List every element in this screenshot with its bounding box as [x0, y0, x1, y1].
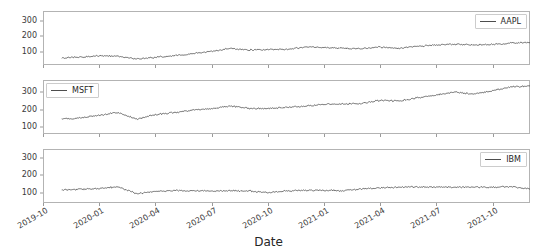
xtick-mark: [43, 65, 44, 68]
xtick-label: 2020-07: [179, 206, 218, 234]
xtick-mark: [99, 134, 100, 137]
xtick-mark: [268, 134, 269, 137]
legend-swatch-msft: [51, 90, 67, 91]
xtick-label: 2021-04: [347, 206, 386, 234]
ytick-label-aapl-100: 100: [22, 48, 37, 56]
xtick-mark: [436, 203, 437, 206]
xtick-mark: [380, 65, 381, 68]
xtick-label: 2020-01: [67, 206, 106, 234]
ytick-mark-ibm-100: [40, 192, 43, 193]
xtick-mark: [324, 134, 325, 137]
ytick-label-msft-300: 300: [22, 88, 37, 96]
xtick-mark: [99, 203, 100, 206]
xtick-mark: [43, 203, 44, 206]
xtick-mark: [268, 203, 269, 206]
ytick-label-ibm-100: 100: [22, 189, 37, 197]
xtick-mark: [436, 65, 437, 68]
legend-aapl[interactable]: AAPL: [475, 14, 527, 29]
xtick-mark: [43, 134, 44, 137]
legend-label-msft: MSFT: [72, 86, 93, 95]
xtick-mark: [212, 203, 213, 206]
ytick-mark-aapl-200: [40, 36, 43, 37]
ytick-label-ibm-200: 200: [22, 171, 37, 179]
ytick-label-msft-100: 100: [22, 123, 37, 131]
subplot-aapl: 300 200 100 AAPL: [43, 11, 530, 65]
legend-msft[interactable]: MSFT: [46, 83, 99, 98]
ytick-mark-ibm-300: [40, 157, 43, 158]
series-line-aapl: [43, 11, 530, 65]
legend-ibm[interactable]: IBM: [480, 152, 527, 167]
ytick-mark-aapl-300: [40, 20, 43, 21]
ytick-mark-msft-200: [40, 109, 43, 110]
xtick-label: 2021-10: [460, 206, 499, 234]
ytick-mark-msft-100: [40, 127, 43, 128]
ytick-mark-msft-300: [40, 92, 43, 93]
xtick-label: 2020-10: [235, 206, 274, 234]
xtick-mark: [99, 65, 100, 68]
ytick-label-msft-200: 200: [22, 106, 37, 114]
stock-price-figure: 300 200 100 AAPL 300 200 100 MSFT 300 20…: [0, 0, 537, 251]
xtick-mark: [324, 203, 325, 206]
series-line-ibm: [43, 149, 530, 203]
xtick-mark: [212, 65, 213, 68]
xtick-mark: [493, 65, 494, 68]
xtick-mark: [380, 203, 381, 206]
series-line-msft: [43, 80, 530, 134]
legend-swatch-aapl: [480, 21, 496, 22]
xtick-mark: [324, 65, 325, 68]
legend-label-aapl: AAPL: [501, 17, 521, 26]
xtick-mark: [493, 203, 494, 206]
ytick-label-ibm-300: 300: [22, 154, 37, 162]
legend-swatch-ibm: [485, 159, 501, 160]
xtick-mark: [493, 134, 494, 137]
xtick-label: 2021-01: [291, 206, 330, 234]
xtick-mark: [268, 65, 269, 68]
xtick-mark: [155, 203, 156, 206]
legend-label-ibm: IBM: [506, 155, 521, 164]
ytick-label-aapl-200: 200: [22, 32, 37, 40]
xtick-mark: [380, 134, 381, 137]
ytick-mark-aapl-100: [40, 52, 43, 53]
xtick-mark: [155, 134, 156, 137]
xtick-mark: [436, 134, 437, 137]
subplot-ibm: 300 200 100 IBM: [43, 149, 530, 203]
xtick-label: 2020-04: [123, 206, 162, 234]
ytick-mark-ibm-200: [40, 175, 43, 176]
subplot-msft: 300 200 100 MSFT: [43, 80, 530, 134]
xtick-label: 2021-07: [404, 206, 443, 234]
xtick-label: 2019-10: [10, 206, 49, 234]
xtick-mark: [212, 134, 213, 137]
x-axis-title: Date: [0, 235, 537, 249]
ytick-label-aapl-300: 300: [22, 17, 37, 25]
xtick-mark: [155, 65, 156, 68]
